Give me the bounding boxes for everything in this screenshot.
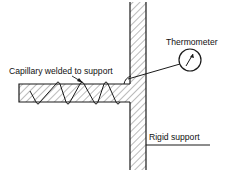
capillary-label: Capillary welded to support	[9, 66, 113, 76]
vertical-wall	[130, 2, 146, 170]
capillary-arrow-icon	[72, 76, 83, 83]
thermometer-label: Thermometer	[166, 37, 218, 47]
capillary-thermometer-diagram: Thermometer Capillary welded to support …	[0, 0, 225, 184]
rigid-support-label: Rigid support	[149, 132, 200, 142]
thermometer-icon	[179, 49, 201, 71]
